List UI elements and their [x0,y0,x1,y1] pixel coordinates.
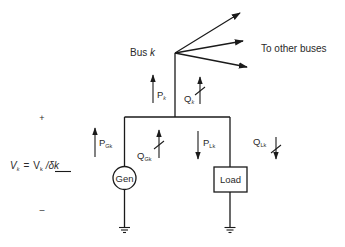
plus-sign: + [39,113,44,123]
pgk-label: PGk [99,137,113,149]
qlk-label: QLk [253,136,266,148]
voltage-equation: Vk=Vk/δk [10,160,60,172]
minus-sign: – [39,205,44,215]
gen-label: Gen [116,173,134,184]
to-other-buses-label: To other buses [261,43,327,54]
outgoing-lines [175,13,247,67]
bus-label: Bus k [130,47,156,58]
plk-label: PLk [203,137,215,149]
load-label: Load [220,174,241,185]
power-bus-diagram: To other buses Bus k Pk Qk Gen PGk QGk L… [0,0,345,247]
pk-label: Pk [157,89,166,101]
line-to-bus-3 [175,53,247,67]
qk-label: Qk [184,93,194,105]
ground-icon-gen [119,228,130,233]
ground-icon-load [225,228,236,233]
qgk-label: QGk [137,150,152,162]
